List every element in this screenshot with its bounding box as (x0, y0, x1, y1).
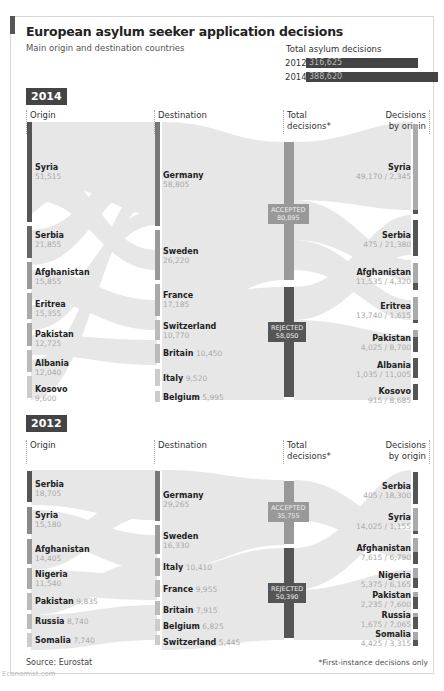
year-badge-2014: 2014 (26, 88, 67, 105)
destination-label: France17,185 (163, 291, 193, 309)
origin-label: Somalia 7,740 (35, 636, 95, 645)
origin-node-somalia (27, 633, 32, 647)
origin-node-serbia (27, 471, 32, 502)
origin-label: Afghanistan14,405 (35, 545, 90, 563)
by-origin-bar-afghanistan-rejected (413, 283, 418, 290)
destination-label: Sweden16,330 (163, 532, 198, 550)
by-origin-label: Afghanistan7,615 / 6,790 (356, 544, 411, 562)
source-note: Source: Eurostat (26, 658, 92, 667)
destination-node-sweden (155, 230, 160, 280)
origin-node-russia (27, 614, 32, 629)
by-origin-label: Afghanistan11,535 / 4,320 (356, 268, 411, 286)
column-header-total: Totaldecisions* (283, 440, 331, 464)
by-origin-label: Somalia4,425 / 3,315 (361, 630, 411, 648)
origin-label: Pakistan 9,835 (35, 597, 98, 606)
by-origin-label: Nigeria5,375 / 6,165 (361, 571, 411, 589)
origin-node-afghanistan (27, 539, 32, 564)
footnote: *First-instance decisions only (319, 658, 428, 667)
year-badge-2012: 2012 (26, 415, 67, 432)
origin-label: Albania12,040 (35, 359, 69, 377)
destination-label: Germany58,805 (163, 171, 204, 189)
destination-node-switzerland (155, 635, 160, 645)
by-origin-bar-pakistan-rejected (413, 337, 418, 352)
origin-label: Nigeria11,540 (35, 570, 68, 588)
origin-node-serbia (27, 226, 32, 258)
origin-node-afghanistan (27, 262, 32, 289)
by-origin-label: Syria14,025 / 1,155 (356, 513, 411, 531)
column-header-destination: Destination (154, 440, 207, 464)
origin-node-syria (27, 122, 32, 222)
destination-label: Britain 10,450 (163, 349, 222, 358)
destination-node-britain (155, 344, 160, 363)
column-header-origin: Origin (26, 440, 56, 464)
by-origin-bar-russia-rejected (413, 617, 418, 629)
destination-node-switzerland (155, 320, 160, 340)
site-credit: Economist.com (2, 670, 56, 678)
by-origin-label: Pakistan4,025 / 8,700 (361, 334, 411, 352)
origin-label: Pakistan12,725 (35, 330, 74, 348)
by-origin-bar-somalia (413, 632, 418, 640)
by-origin-bar-afghanistan (413, 538, 418, 552)
destination-node-britain (155, 601, 160, 615)
destination-label: Germany29,265 (163, 491, 204, 509)
origin-node-pakistan (27, 593, 32, 610)
column-header-by-origin: Decisionsby origin (382, 440, 430, 464)
rejected-label-2012: REJECTED50,390 (268, 583, 306, 603)
destination-label: Switzerland 5,445 (163, 638, 240, 647)
by-origin-bar-eritrea-rejected (413, 320, 418, 323)
by-origin-label: Syria49,170 / 2,345 (356, 163, 411, 181)
origin-label: Syria15,180 (35, 511, 61, 529)
destination-label: Belgium 6,825 (163, 622, 224, 631)
destination-node-france (155, 284, 160, 316)
column-header-destination: Destination (154, 110, 207, 134)
by-origin-bar-nigeria (413, 568, 418, 578)
by-origin-bar-syria-rejected (413, 531, 418, 534)
origin-label: Kosovo9,600 (35, 385, 68, 403)
by-origin-bar-syria (413, 508, 418, 531)
by-origin-bar-somalia-rejected (413, 640, 418, 646)
by-origin-bar-pakistan (413, 330, 418, 337)
by-origin-label: Albania1,035 / 11,005 (356, 361, 411, 379)
origin-node-pakistan (27, 323, 32, 346)
destination-label: Switzerland10,770 (163, 322, 216, 340)
by-origin-bar-kosovo (413, 384, 418, 400)
column-header-by-origin: Decisionsby origin (382, 110, 430, 134)
destination-node-italy (155, 558, 160, 576)
by-origin-label: Kosovo915 / 8,685 (368, 387, 411, 405)
origin-node-kosovo (27, 376, 32, 398)
origin-node-albania (27, 350, 32, 372)
by-origin-label: Russia1,675 / 7,065 (361, 611, 411, 629)
origin-node-eritrea (27, 293, 32, 319)
by-origin-label: Serbia405 / 18,300 (363, 482, 411, 500)
by-origin-label: Eritrea13,740 / 1,615 (356, 302, 411, 320)
by-origin-bar-syria (413, 124, 418, 210)
by-origin-label: Pakistan2,235 / 7,600 (361, 591, 411, 609)
destination-label: Italy 9,520 (163, 374, 207, 383)
by-origin-label: Serbia475 / 21,380 (363, 231, 411, 249)
by-origin-bar-albania (413, 358, 418, 378)
origin-label: Russia 8,740 (35, 617, 89, 626)
destination-node-sweden (155, 525, 160, 554)
rejected-bar-2014 (284, 287, 294, 397)
by-origin-bar-nigeria-rejected (413, 578, 418, 588)
origin-label: Afghanistan15,855 (35, 268, 90, 286)
by-origin-bar-afghanistan (413, 263, 418, 283)
by-origin-bar-afghanistan-rejected (413, 552, 418, 564)
rejected-label-2014: REJECTED58,050 (268, 322, 306, 342)
origin-node-syria (27, 507, 32, 534)
destination-label: Italy 10,410 (163, 563, 212, 572)
by-origin-bar-eritrea (413, 297, 418, 320)
origin-label: Serbia18,705 (35, 480, 64, 498)
destination-label: Belgium 5,995 (163, 393, 224, 402)
destination-node-belgium (155, 391, 160, 402)
destination-node-italy (155, 369, 160, 386)
origin-label: Eritrea15,355 (35, 300, 66, 318)
column-header-total: Totaldecisions* (283, 110, 331, 134)
by-origin-bar-serbia (413, 220, 418, 256)
destination-node-france (155, 580, 160, 597)
by-origin-bar-pakistan-rejected (413, 597, 418, 609)
destination-node-belgium (155, 619, 160, 631)
origin-node-nigeria (27, 568, 32, 589)
origin-label: Serbia21,855 (35, 231, 64, 249)
origin-label: Syria51,515 (35, 163, 61, 181)
